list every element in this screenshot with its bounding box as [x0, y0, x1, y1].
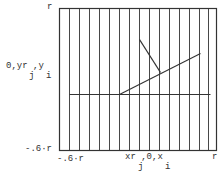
y-axis-bottom-label: -.6·r [25, 145, 52, 154]
x-axis-mid-subscript-j: j [138, 163, 143, 171]
y-axis-mid-subscript-i: i [46, 72, 51, 81]
short-segment-line [140, 40, 161, 73]
plot-frame [60, 9, 217, 151]
x-axis-mid-subscript-i: i [165, 163, 170, 171]
y-axis-top-label: r [47, 3, 52, 12]
x-axis-left-label: -.6·r [57, 155, 84, 164]
diagonal-line [120, 54, 201, 95]
y-axis-mid-label: 0,yr ,y [6, 62, 44, 71]
y-axis-mid-subscript-j: j [29, 72, 34, 81]
x-axis-mid-label: xr ,0,x [125, 153, 163, 162]
x-axis-right-label: r [212, 153, 217, 162]
